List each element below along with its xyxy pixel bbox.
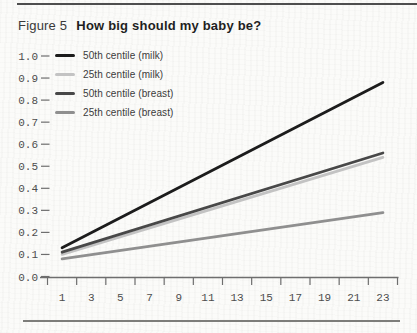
y-tick-label: 0.1 bbox=[18, 249, 38, 261]
x-tick-label: 11 bbox=[201, 292, 215, 304]
legend-item: 25th centile (breast) bbox=[55, 103, 173, 122]
x-tick-label: 3 bbox=[88, 292, 95, 304]
x-tick-label: 7 bbox=[146, 292, 153, 304]
legend-label: 50th centile (milk) bbox=[83, 50, 163, 61]
series-line-2 bbox=[62, 157, 383, 254]
x-tick-label: 23 bbox=[376, 292, 389, 304]
x-tick-label: 21 bbox=[347, 292, 361, 304]
figure-page: Figure 5How big should my baby be? 13579… bbox=[0, 0, 417, 333]
x-tick-label: 13 bbox=[230, 292, 243, 304]
legend-item: 50th centile (breast) bbox=[55, 84, 173, 103]
chart-legend: 50th centile (milk)25th centile (milk)50… bbox=[55, 46, 173, 122]
legend-swatch bbox=[55, 92, 75, 95]
legend-label: 50th centile (breast) bbox=[83, 88, 173, 99]
legend-swatch bbox=[55, 73, 75, 76]
legend-swatch bbox=[55, 54, 75, 57]
y-tick-label: 0.8 bbox=[18, 95, 38, 107]
y-tick-label: 0.6 bbox=[18, 139, 38, 151]
legend-item: 25th centile (milk) bbox=[55, 65, 173, 84]
bottom-rule bbox=[23, 320, 400, 322]
y-tick-label: 0.0 bbox=[18, 272, 38, 284]
legend-label: 25th centile (breast) bbox=[83, 107, 173, 118]
x-tick-label: 17 bbox=[289, 292, 302, 304]
series-line-3 bbox=[62, 153, 383, 252]
x-tick-label: 15 bbox=[260, 292, 273, 304]
y-tick-label: 0.5 bbox=[18, 161, 38, 173]
x-tick-label: 9 bbox=[175, 292, 182, 304]
y-tick-label: 0.7 bbox=[18, 117, 38, 129]
legend-swatch bbox=[55, 111, 75, 114]
x-tick-label: 19 bbox=[318, 292, 331, 304]
legend-item: 50th centile (milk) bbox=[55, 46, 173, 65]
x-tick-label: 1 bbox=[59, 292, 66, 304]
y-tick-label: 0.9 bbox=[18, 73, 38, 85]
y-tick-label: 0.2 bbox=[18, 227, 38, 239]
y-tick-label: 0.3 bbox=[18, 205, 38, 217]
series-line-4 bbox=[62, 213, 383, 259]
y-tick-label: 0.4 bbox=[18, 183, 38, 195]
legend-label: 25th centile (milk) bbox=[83, 69, 163, 80]
y-tick-label: 1.0 bbox=[18, 51, 38, 63]
x-tick-label: 5 bbox=[117, 292, 124, 304]
